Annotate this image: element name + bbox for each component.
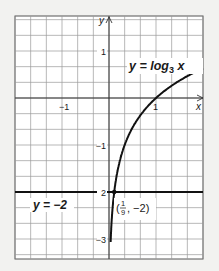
svg-text:(: (: [116, 202, 120, 214]
svg-text:, −2): , −2): [127, 202, 149, 214]
svg-text:y = log3 x: y = log3 x: [128, 59, 185, 75]
svg-text:y = −2: y = −2: [32, 198, 67, 212]
line-label: y = −2: [30, 198, 74, 212]
intersection-point: [112, 190, 116, 194]
x-axis-label: x: [195, 101, 202, 112]
point-label: ( 1 9 , −2): [114, 198, 156, 220]
curve-label: y = log3 x: [127, 58, 203, 75]
y-tick-label: 1: [101, 47, 106, 57]
svg-text:9: 9: [121, 208, 125, 217]
y-tick-label: −3: [96, 235, 106, 245]
y-tick-label: 2: [101, 188, 106, 198]
log-graph: −111−12−3 y x y = log3 x y = −2 ( 1 9 , …: [0, 0, 219, 271]
y-tick-label: −1: [96, 141, 106, 151]
curve-label-var: x: [174, 59, 185, 73]
y-axis-label: y: [98, 15, 105, 26]
x-tick-label: 1: [153, 102, 158, 112]
x-tick-label: −1: [59, 102, 69, 112]
svg-text:1: 1: [121, 199, 125, 208]
curve-label-main: y = log: [128, 59, 169, 73]
